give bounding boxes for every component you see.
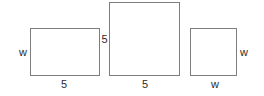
- left-rectangle: [30, 28, 100, 76]
- geometry-figure-canvas: w 5 5 5 w w: [0, 0, 264, 96]
- middle-rectangle: [109, 2, 180, 76]
- right-rectangle-width-label: w: [209, 79, 221, 90]
- middle-rectangle-width-label: 5: [139, 79, 151, 90]
- right-rectangle-height-label: w: [239, 47, 249, 58]
- left-rectangle-height-label: w: [18, 47, 28, 58]
- left-rectangle-width-label: 5: [58, 79, 70, 90]
- right-rectangle: [190, 28, 237, 76]
- middle-rectangle-height-label: 5: [100, 34, 109, 45]
